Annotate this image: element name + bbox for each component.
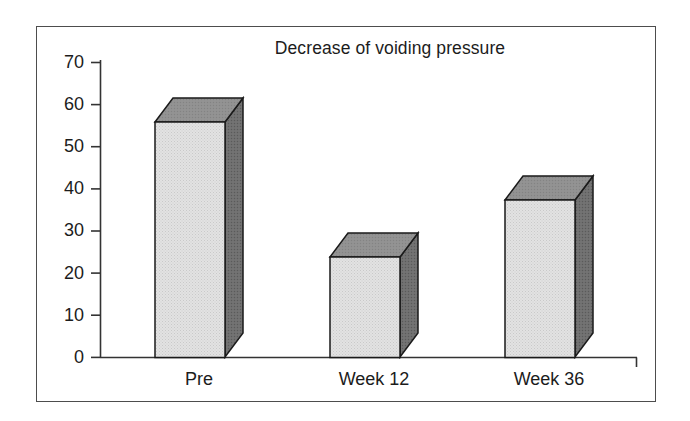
y-axis-ticks xyxy=(91,63,100,358)
bar-week-36-front-face xyxy=(505,200,575,358)
y-tick-label-70: 70 xyxy=(38,53,84,71)
y-tick-label-0: 0 xyxy=(38,348,84,366)
y-tick-label-40: 40 xyxy=(38,179,84,197)
bar-pre xyxy=(155,98,243,358)
x-tick-label-week-36: Week 36 xyxy=(469,369,629,390)
y-tick-label-20: 20 xyxy=(38,264,84,282)
bar-week-12 xyxy=(330,233,418,358)
y-tick-label-50: 50 xyxy=(38,137,84,155)
y-tick-label-30: 30 xyxy=(38,221,84,239)
x-tick-label-pre: Pre xyxy=(119,369,279,390)
y-tick-label-60: 60 xyxy=(38,95,84,113)
bar-week-36-side-face xyxy=(575,176,593,357)
chart-figure: Decrease of voiding pressure 70 60 50 40… xyxy=(0,0,690,421)
bar-week-12-front-face xyxy=(330,257,400,358)
bar-pre-front-face xyxy=(155,122,225,358)
x-tick-label-week-12: Week 12 xyxy=(294,369,454,390)
chart-title: Decrease of voiding pressure xyxy=(230,38,550,59)
y-tick-label-10: 10 xyxy=(38,306,84,324)
bar-pre-side-face xyxy=(225,98,243,357)
chart-plot-area xyxy=(0,0,690,421)
bar-week-36 xyxy=(505,176,593,358)
